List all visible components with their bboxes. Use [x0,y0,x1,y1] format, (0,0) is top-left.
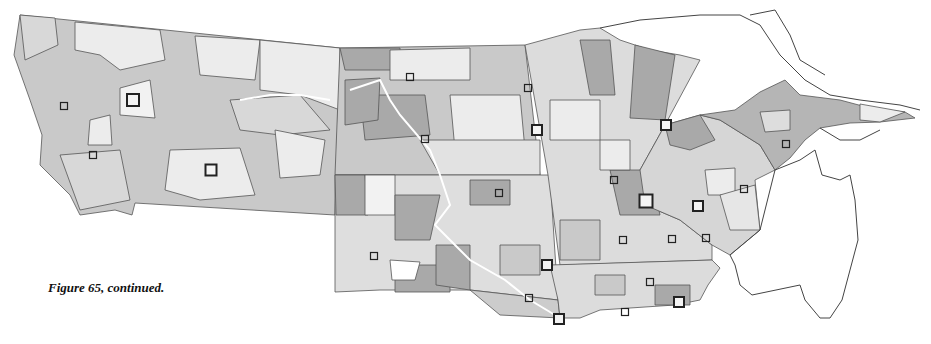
site-marker-square [127,94,139,106]
site-marker-square [532,125,542,135]
state-north-dakota [335,45,540,175]
site-marker-square [640,195,653,208]
site-marker-square [554,314,564,324]
figure-caption: Figure 65, continued. [48,280,164,296]
state-iowa [550,260,720,318]
site-marker-square [542,260,552,270]
site-marker-square [622,309,629,316]
site-marker-square [693,201,703,211]
site-marker-square [661,120,671,130]
site-marker-square [206,165,217,176]
state-montana [14,15,340,215]
site-marker-square [674,297,684,307]
